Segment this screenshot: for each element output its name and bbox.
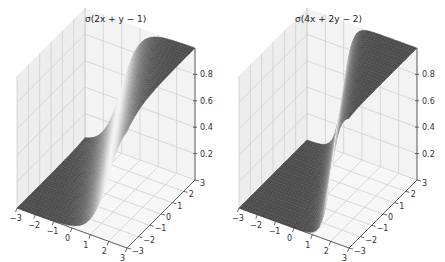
y-tick-label: 1	[177, 202, 182, 211]
y-tick	[394, 203, 398, 204]
surface-plot-right: −3−2−10123−3−2−101230.20.40.60.8σ(4x + 2…	[222, 0, 445, 262]
x-tick-label: −3	[10, 214, 22, 223]
x-tick	[52, 221, 54, 225]
x-tick	[274, 221, 276, 225]
y-tick-label: −1	[377, 224, 389, 233]
x-tick-label: −1	[47, 227, 59, 236]
y-tick	[417, 180, 421, 181]
y-tick-label: −3	[354, 247, 366, 256]
x-tick-label: −2	[250, 221, 262, 230]
x-tick	[71, 228, 73, 232]
y-tick-label: −1	[155, 224, 167, 233]
plot-title: σ(4x + 2y − 2)	[295, 14, 362, 24]
y-tick-label: 3	[200, 179, 205, 188]
y-tick	[138, 237, 142, 238]
x-tick-label: 2	[102, 247, 107, 256]
x-tick-label: 0	[287, 234, 292, 243]
y-tick	[406, 191, 410, 192]
x-tick-label: 3	[342, 254, 347, 262]
y-tick	[184, 191, 188, 192]
x-tick	[329, 241, 331, 245]
x-tick-label: 1	[83, 241, 88, 250]
axes-3d: −3−2−10123−3−2−101230.20.40.60.8	[10, 8, 213, 262]
surface-plot-left: −3−2−10123−3−2−101230.20.40.60.8σ(2x + y…	[0, 0, 222, 262]
y-tick-label: −2	[143, 236, 155, 245]
axes-3d: −3−2−10123−3−2−101230.20.40.60.8	[232, 8, 435, 262]
y-tick	[127, 248, 131, 249]
z-tick-label: 0.6	[200, 97, 213, 106]
y-tick-label: 2	[411, 190, 416, 199]
y-tick-label: −3	[132, 247, 144, 256]
y-tick	[372, 225, 376, 226]
y-tick-label: 0	[166, 213, 171, 222]
y-tick-label: −2	[365, 236, 377, 245]
x-tick-label: 0	[65, 234, 70, 243]
z-tick-label: 0.8	[422, 70, 435, 79]
x-tick	[348, 248, 350, 252]
x-tick-label: 2	[324, 247, 329, 256]
z-tick-label: 0.6	[422, 97, 435, 106]
y-tick-label: 2	[189, 190, 194, 199]
plot-title: σ(2x + y − 1)	[85, 14, 146, 24]
x-tick	[238, 208, 240, 212]
figure: −3−2−10123−3−2−101230.20.40.60.8σ(2x + y…	[0, 0, 445, 262]
z-tick-label: 0.8	[200, 70, 213, 79]
x-tick-label: 1	[305, 241, 310, 250]
y-tick	[172, 203, 176, 204]
z-tick-label: 0.2	[200, 150, 213, 159]
y-tick-label: 1	[399, 202, 404, 211]
x-tick	[256, 215, 258, 219]
y-tick	[349, 248, 353, 249]
x-tick-label: −1	[269, 227, 281, 236]
y-tick	[161, 214, 165, 215]
x-tick	[34, 215, 36, 219]
x-tick	[126, 248, 128, 252]
x-tick-label: −3	[232, 214, 244, 223]
y-tick	[195, 180, 199, 181]
x-tick	[16, 208, 18, 212]
y-tick	[150, 225, 154, 226]
y-tick	[360, 237, 364, 238]
x-tick	[293, 228, 295, 232]
z-tick-label: 0.4	[200, 123, 213, 132]
x-tick	[311, 235, 313, 239]
x-tick	[89, 235, 91, 239]
y-tick	[383, 214, 387, 215]
x-tick-label: 3	[120, 254, 125, 262]
x-tick	[107, 241, 109, 245]
y-tick-label: 3	[422, 179, 427, 188]
z-tick-label: 0.4	[422, 123, 435, 132]
z-tick-label: 0.2	[422, 150, 435, 159]
y-tick-label: 0	[388, 213, 393, 222]
x-tick-label: −2	[28, 221, 40, 230]
